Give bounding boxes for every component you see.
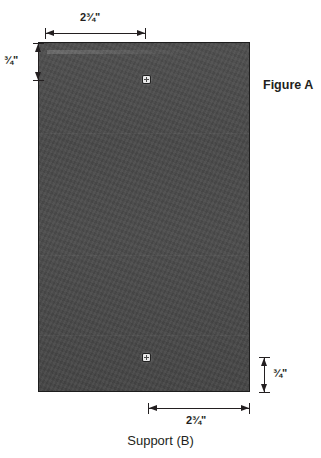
panel-seam (39, 255, 249, 256)
arrowhead-left-icon (149, 405, 157, 411)
support-panel (38, 42, 250, 392)
figure-caption: Support (B) (0, 434, 321, 447)
screw-slot (144, 79, 149, 80)
panel-seam (39, 335, 249, 336)
screw-slot (144, 357, 149, 358)
arrowhead-left-icon (46, 30, 54, 36)
dimension-label-top-width: 2¾" (80, 12, 100, 23)
panel-texture (39, 43, 249, 391)
figure-label: Figure A (263, 79, 313, 92)
dimension-tick (33, 80, 44, 81)
arrowhead-right-icon (241, 405, 249, 411)
dimension-shaft (148, 408, 250, 409)
dimension-line-right-height (258, 357, 270, 393)
screw-icon (143, 76, 150, 83)
arrowhead-right-icon (137, 30, 145, 36)
dimension-tick (259, 392, 270, 393)
dimension-tick (145, 28, 146, 39)
technical-drawing: 2¾" ¾" ¾" 2¾" Figure A Support (B) (0, 0, 321, 458)
dimension-tick (249, 403, 250, 414)
dimension-shaft (45, 33, 146, 34)
arrowhead-down-icon (261, 384, 267, 392)
screw-icon (143, 354, 150, 361)
dimension-line-top-width (45, 27, 146, 39)
panel-highlight (47, 50, 194, 54)
dimension-line-bottom-width (148, 402, 250, 414)
arrowhead-up-icon (261, 358, 267, 366)
arrowhead-up-icon (35, 44, 41, 52)
dimension-line-left-height (32, 43, 44, 81)
dimension-label-bottom-width: 2¾" (186, 415, 206, 426)
panel-seam (39, 133, 249, 134)
dimension-label-right-height: ¾" (273, 368, 287, 379)
arrowhead-down-icon (35, 72, 41, 80)
dimension-label-left-height: ¾" (4, 55, 18, 66)
